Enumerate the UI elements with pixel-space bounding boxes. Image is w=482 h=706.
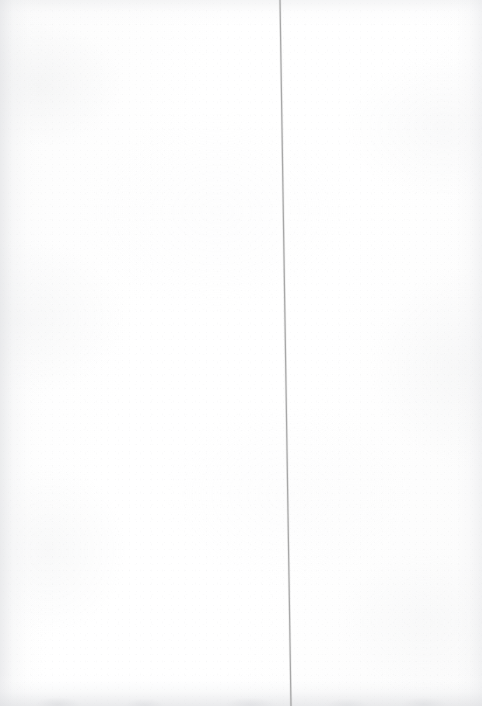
scanned-page bbox=[0, 0, 482, 706]
vertical-rule-layer bbox=[0, 0, 482, 706]
vertical-rule-line bbox=[280, 0, 291, 706]
vertical-rule-svg bbox=[0, 0, 482, 706]
